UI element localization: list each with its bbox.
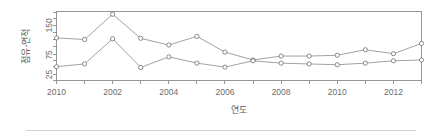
data-point-marker <box>139 65 143 69</box>
data-point-marker <box>419 41 423 45</box>
data-point-marker <box>167 55 171 59</box>
x-tick-label: 2010 <box>328 87 347 97</box>
y-tick-label: 75 <box>45 50 55 60</box>
data-point-marker <box>363 48 367 52</box>
data-point-marker <box>279 54 283 58</box>
data-point-marker <box>307 62 311 66</box>
chart-figure: 2575150점유-면적2010200220042006200820102012… <box>0 0 442 136</box>
x-tick-label: 2012 <box>384 87 403 97</box>
data-point-marker <box>363 61 367 65</box>
data-point-marker <box>195 34 199 38</box>
y-axis-tick-labels: 2575150 <box>45 18 55 79</box>
data-point-marker <box>335 53 339 57</box>
data-point-marker <box>391 52 395 56</box>
x-axis-tick-labels: 2010200220042006200820102012 <box>47 87 403 97</box>
x-tick-label: 2010 <box>47 87 66 97</box>
x-tick-label: 2008 <box>272 87 291 97</box>
data-point-marker <box>307 54 311 58</box>
data-point-marker <box>419 58 423 62</box>
data-point-marker <box>139 36 143 40</box>
line-chart-svg: 2575150점유-면적2010200220042006200820102012… <box>0 0 442 136</box>
data-point-marker <box>111 12 115 16</box>
data-point-marker <box>223 65 227 69</box>
data-point-marker <box>82 37 86 41</box>
series-lower <box>54 37 423 70</box>
y-axis-title: 점유-면적 <box>20 29 31 64</box>
data-point-marker <box>167 43 171 47</box>
x-tick-label: 2006 <box>216 87 235 97</box>
data-point-marker <box>54 65 58 69</box>
y-tick-label: 25 <box>45 70 55 80</box>
x-axis-title: 연도 <box>231 105 247 115</box>
data-point-marker <box>335 63 339 67</box>
series-upper <box>54 12 423 62</box>
y-tick-label: 150 <box>45 18 55 32</box>
data-point-marker <box>251 59 255 63</box>
data-point-marker <box>82 62 86 66</box>
data-point-marker <box>279 61 283 65</box>
footer-divider <box>26 130 416 131</box>
x-tick-label: 2002 <box>103 87 122 97</box>
x-axis-ticks <box>57 81 422 85</box>
data-point-marker <box>195 61 199 65</box>
data-point-marker <box>54 36 58 40</box>
x-tick-label: 2004 <box>159 87 178 97</box>
plot-border <box>57 12 422 81</box>
data-point-marker <box>223 50 227 54</box>
data-point-marker <box>391 59 395 63</box>
data-point-marker <box>111 37 115 41</box>
